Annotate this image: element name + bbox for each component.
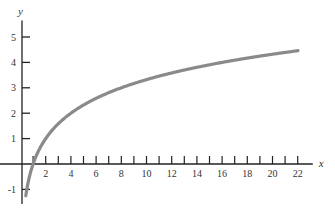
- y-tick-label: 5: [11, 32, 16, 43]
- x-tick-label: 22: [293, 168, 303, 179]
- x-tick-label: 2: [43, 168, 48, 179]
- x-tick-label: 8: [119, 168, 124, 179]
- y-axis-label: y: [17, 5, 23, 17]
- x-axis-label: x: [318, 157, 324, 169]
- x-tick-label: 18: [242, 168, 252, 179]
- y-tick-label: 3: [11, 82, 16, 93]
- x-tick-label: 12: [167, 168, 177, 179]
- x-tick-label: 14: [192, 168, 202, 179]
- y-tick-label: -1: [8, 184, 16, 195]
- ticks: [22, 37, 298, 189]
- y-tick-label: 4: [11, 57, 16, 68]
- log-function-chart: 246810121416182022-112345 x y: [0, 0, 335, 212]
- x-tick-label: 20: [268, 168, 278, 179]
- x-tick-label: 10: [142, 168, 152, 179]
- y-tick-label: 2: [11, 108, 16, 119]
- function-curve: [26, 51, 298, 196]
- y-tick-label: 1: [11, 133, 16, 144]
- x-tick-label: 16: [217, 168, 227, 179]
- x-tick-label: 6: [94, 168, 99, 179]
- x-tick-label: 4: [68, 168, 73, 179]
